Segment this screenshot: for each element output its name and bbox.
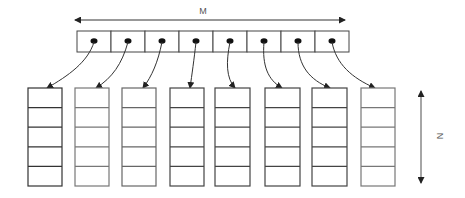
- column: [122, 88, 156, 186]
- column: [170, 88, 204, 186]
- height-dimension: N: [421, 91, 445, 183]
- height-label: N: [435, 133, 445, 140]
- pointer-array: [77, 31, 349, 52]
- column: [75, 88, 109, 186]
- column: [361, 88, 395, 186]
- width-label: M: [199, 6, 207, 16]
- column: [215, 88, 250, 186]
- column: [312, 88, 347, 186]
- array-of-pointers-diagram: M: [0, 0, 465, 198]
- column: [265, 88, 300, 186]
- column: [28, 88, 62, 186]
- columns: [28, 88, 395, 186]
- width-dimension: M: [75, 6, 345, 20]
